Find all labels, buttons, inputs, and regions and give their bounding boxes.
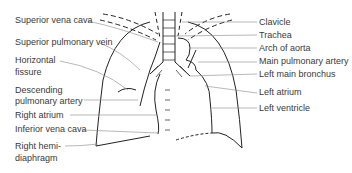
label-clavicle: Clavicle — [259, 17, 291, 28]
right-heart-border — [155, 74, 160, 134]
label-left-main-bronchus: Left main bronchus — [259, 69, 336, 80]
label-descending-pulmonary-artery-line2: pulmonary artery — [15, 96, 83, 107]
label-arch-of-aorta: Arch of aorta — [259, 43, 311, 54]
left-heart-border — [196, 70, 212, 133]
label-horizontal-fissure-line1: Horizontal — [15, 55, 56, 66]
label-horizontal-fissure-line2: fissure — [15, 67, 42, 78]
label-left-atrium: Left atrium — [259, 87, 302, 98]
left-clavicle-lower — [188, 20, 232, 40]
left-lung-outline — [188, 22, 242, 148]
label-superior-pulmonary-vein: Superior pulmonary vein — [15, 37, 113, 48]
label-left-ventricle: Left ventricle — [259, 103, 310, 114]
label-right-atrium: Right atrium — [15, 110, 64, 121]
label-trachea: Trachea — [259, 30, 292, 41]
aortic-arch — [178, 38, 196, 70]
label-descending-pulmonary-artery-line1: Descending — [15, 85, 63, 96]
label-main-pulmonary-artery: Main pulmonary artery — [259, 56, 349, 67]
label-superior-vena-cava: Superior vena cava — [15, 15, 93, 26]
label-inferior-vena-cava: Inferior vena cava — [15, 124, 87, 135]
label-right-hemidiaphragm-line1: Right hemi- — [15, 141, 61, 152]
label-right-hemidiaphragm-line2: diaphragm — [15, 153, 58, 164]
